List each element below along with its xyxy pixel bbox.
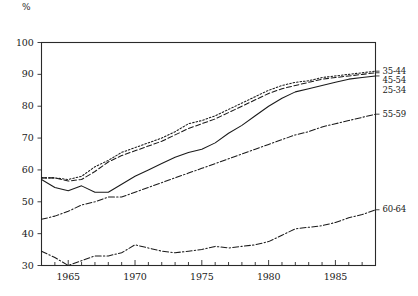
series-line-45-54 xyxy=(42,73,376,181)
series-line-25-34 xyxy=(42,76,376,192)
plot-frame xyxy=(42,43,376,266)
x-axis-tick-label: 1980 xyxy=(249,271,289,282)
y-axis-tick-label: 90 xyxy=(4,68,34,79)
legend-label-55-59: 55-59 xyxy=(383,109,407,119)
y-axis-tick-label: 70 xyxy=(4,132,34,143)
y-axis-tick-label: 30 xyxy=(4,260,34,271)
chart-canvas xyxy=(0,0,418,296)
legend-label-35-44: 35-44 xyxy=(383,66,407,76)
x-axis-tick-label: 1985 xyxy=(315,271,355,282)
line-chart: % 10090807060504030 19651970197519801985… xyxy=(0,0,418,296)
x-axis-tick-label: 1965 xyxy=(48,271,88,282)
y-axis-tick-label: 50 xyxy=(4,196,34,207)
series-line-35-44 xyxy=(42,71,376,179)
y-axis-tick-label: 40 xyxy=(4,228,34,239)
legend-label-25-34: 25-34 xyxy=(383,85,407,95)
y-axis-tick-label: 80 xyxy=(4,100,34,111)
legend-label-45-54: 45-54 xyxy=(383,75,407,85)
series-line-55-59 xyxy=(42,114,376,219)
x-axis-tick-label: 1970 xyxy=(115,271,155,282)
y-axis-tick-label: 100 xyxy=(4,37,34,48)
x-axis-tick-label: 1975 xyxy=(182,271,222,282)
y-axis-tick-label: 60 xyxy=(4,164,34,175)
series-line-60-64 xyxy=(42,210,376,266)
legend-label-60-64: 60-64 xyxy=(383,204,407,214)
